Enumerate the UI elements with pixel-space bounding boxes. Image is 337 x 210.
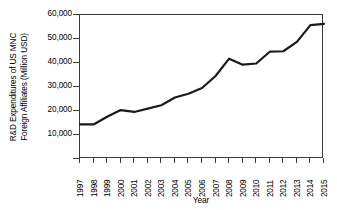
x-tick-label: 2003 — [156, 165, 166, 199]
x-tick-label-text: 2015 — [320, 180, 329, 197]
x-tick-label-text: 2000 — [117, 180, 126, 197]
x-tick-mark — [242, 158, 243, 163]
x-tick-label-text: 2014 — [306, 180, 315, 197]
x-tick-label-text: 2011 — [266, 180, 275, 197]
x-tick-label: 2010 — [251, 165, 261, 199]
x-tick-mark — [106, 158, 107, 163]
x-tick-label: 2013 — [292, 165, 302, 199]
x-tick-label-text: 2009 — [239, 180, 248, 197]
x-tick-label: 2004 — [170, 165, 180, 199]
x-tick-label-text: 2008 — [225, 180, 234, 197]
x-tick-label: 2008 — [224, 165, 234, 199]
y-axis-title-container: R&D Expenditures of US MNC Foreign Affil… — [0, 0, 30, 170]
x-tick-mark — [282, 158, 283, 163]
x-tick-label: 2007 — [211, 165, 221, 199]
plot-area — [79, 14, 323, 158]
y-tick-label: 40,000 — [32, 58, 72, 66]
x-tick-label: 2006 — [197, 165, 207, 199]
x-tick-label: 2000 — [116, 165, 126, 199]
x-tick-mark — [174, 158, 175, 163]
x-tick-mark — [228, 158, 229, 163]
x-tick-mark — [309, 158, 310, 163]
x-tick-mark — [93, 158, 94, 163]
x-tick-label: 2011 — [265, 165, 275, 199]
x-tick-label-text: 2012 — [279, 180, 288, 197]
x-axis-title: Year — [79, 196, 323, 205]
x-tick-label-text: 2007 — [212, 180, 221, 197]
x-tick-mark — [79, 158, 80, 163]
y-tick-label: 60,000 — [32, 10, 72, 18]
x-tick-label-text: 1997 — [76, 180, 85, 197]
y-tick-label: 30,000 — [32, 82, 72, 90]
x-tick-label-text: 1999 — [103, 180, 112, 197]
x-tick-mark — [269, 158, 270, 163]
y-tick-label: 50,000 — [32, 34, 72, 42]
y-tick-label: 20,000 — [32, 106, 72, 114]
x-tick-label: 2009 — [238, 165, 248, 199]
x-tick-mark — [187, 158, 188, 163]
y-axis-title: R&D Expenditures of US MNC Foreign Affil… — [9, 11, 30, 163]
y-tick-label: 10,000 — [32, 130, 72, 138]
x-tick-label: 1997 — [75, 165, 85, 199]
x-tick-label-text: 2002 — [144, 180, 153, 197]
x-tick-mark — [215, 158, 216, 163]
x-tick-mark — [323, 158, 324, 163]
x-tick-label-text: 2010 — [252, 180, 261, 197]
x-tick-label-text: 2004 — [171, 180, 180, 197]
x-tick-label: 2001 — [129, 165, 139, 199]
x-tick-label-text: 2001 — [130, 180, 139, 197]
x-tick-mark — [296, 158, 297, 163]
y-axis-title-line-1: R&D Expenditures of US MNC — [9, 11, 20, 163]
x-tick-mark — [120, 158, 121, 163]
x-tick-mark — [147, 158, 148, 163]
chart-figure: R&D Expenditures of US MNC Foreign Affil… — [0, 0, 337, 210]
x-tick-label-text: 2003 — [157, 180, 166, 197]
x-tick-label: 1998 — [89, 165, 99, 199]
x-tick-label: 1999 — [102, 165, 112, 199]
x-tick-label: 2015 — [319, 165, 329, 199]
x-tick-mark — [160, 158, 161, 163]
y-axis-tick-labels: 10,00020,00030,00040,00050,00060,000 — [28, 0, 72, 170]
x-tick-mark — [255, 158, 256, 163]
x-tick-mark — [133, 158, 134, 163]
x-tick-mark — [201, 158, 202, 163]
x-tick-label: 2014 — [305, 165, 315, 199]
series-polyline — [80, 24, 324, 125]
data-series-line — [80, 15, 324, 159]
x-tick-label-text: 1998 — [90, 180, 99, 197]
x-tick-label: 2005 — [183, 165, 193, 199]
x-tick-label-text: 2013 — [293, 180, 302, 197]
x-tick-label: 2012 — [278, 165, 288, 199]
x-tick-label: 2002 — [143, 165, 153, 199]
